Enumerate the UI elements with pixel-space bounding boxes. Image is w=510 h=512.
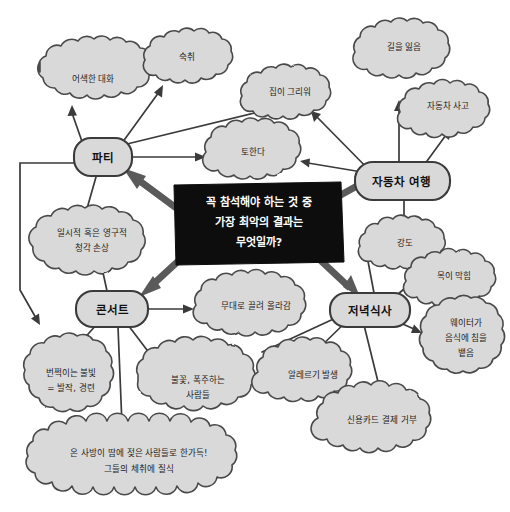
branch-node-party-label: 파티 <box>92 151 114 165</box>
central-question-line1: 꼭 참석해야 하는 것 중 <box>206 195 311 209</box>
cloud-hearing-damage: 일시적 혹은 영구적 청각 손상 <box>29 205 145 275</box>
cloud-card-declined-text: 신용카드 결제 거부 <box>347 415 416 425</box>
cloud-homesick: 집이 그리워 <box>240 64 330 119</box>
cloud-flashing-lights-line2: = 발작, 경련 <box>47 382 94 393</box>
cloud-fire-riot-line1: 불꽃, 폭주하는 <box>171 375 224 385</box>
cloud-awkward-conversation: 어색한 대화 <box>38 36 154 99</box>
cloud-car-accident-text: 자동차 사고 <box>427 101 470 111</box>
cloud-sweaty-crowd: 온 사방이 땀에 젖은 사람들로 한가득! 그들의 체취에 질식 <box>26 413 237 494</box>
cloud-dragged-on-stage-text: 무대로 끌려 올라감 <box>221 300 290 311</box>
cloud-getting-lost: 길을 잃음 <box>353 18 450 78</box>
cloud-awkward-conversation-text: 어색한 대화 <box>72 74 115 84</box>
cloud-waiter-spit-line3: 뱉음 <box>458 348 474 358</box>
cloud-fire-rioting-crowd: 불꽃, 폭주하는 사람들 <box>137 336 255 410</box>
branch-node-dinner[interactable]: 저녁식사 <box>330 293 410 327</box>
branch-node-concert[interactable]: 콘서트 <box>76 291 148 327</box>
central-question-box: 꼭 참석해야 하는 것 중 가장 최악의 결과는 무엇일까? <box>174 182 344 265</box>
branch-node-road-trip[interactable]: 자동차 여행 <box>355 162 450 200</box>
cloud-sweaty-crowd-line1: 온 사방이 땀에 젖은 사람들로 한가득! <box>70 447 207 458</box>
cloud-flashing-lights-line1: 번쩍이는 불빛 <box>46 367 97 378</box>
cloud-waiter-spit-line1: 웨이터가 <box>450 317 482 328</box>
branch-node-party[interactable]: 파티 <box>74 138 132 176</box>
mindmap-diagram: 어색한 대화 숙취 집이 그리워 길을 잃음 자동차 사고 <box>0 0 510 512</box>
cloud-allergic-reaction-text: 알레르기 발생 <box>288 370 339 380</box>
cloud-sweaty-crowd-line2: 그들의 체취에 질식 <box>104 463 173 474</box>
cloud-fire-riot-line2: 사람들 <box>186 390 210 400</box>
cloud-vomiting-text: 토한다 <box>241 147 265 157</box>
central-question-line3: 무엇일까? <box>236 235 282 249</box>
cloud-hangover: 숙취 <box>143 28 232 83</box>
branch-node-road-trip-label: 자동차 여행 <box>372 175 431 189</box>
central-question-line2: 가장 최악의 결과는 <box>215 215 303 229</box>
cloud-robbery-text: 강도 <box>397 238 413 248</box>
cloud-hearing-damage-line2: 청각 손상 <box>75 242 110 253</box>
cloud-hangover-text: 숙취 <box>179 52 195 62</box>
branch-node-dinner-label: 저녁식사 <box>348 304 392 318</box>
cloud-dragged-on-stage: 무대로 끌려 올라감 <box>193 269 306 336</box>
cloud-hearing-damage-line1: 일시적 혹은 영구적 <box>57 227 126 238</box>
cloud-flashing-lights-seizure: 번쩍이는 불빛 = 발작, 경련 <box>24 333 114 412</box>
cloud-waiter-spit: 웨이터가 음식에 침을 뱉음 <box>419 295 504 373</box>
branch-node-concert-label: 콘서트 <box>96 303 129 317</box>
cloud-waiter-spit-line2: 음식에 침을 <box>445 333 488 343</box>
cloud-homesick-text: 집이 그리워 <box>269 86 312 97</box>
cloud-choking-text: 목이 막힘 <box>437 271 472 281</box>
cloud-car-accident: 자동차 사고 <box>397 79 489 137</box>
cloud-getting-lost-text: 길을 잃음 <box>387 42 422 52</box>
cloud-vomiting: 토한다 <box>203 118 301 179</box>
mindmap-canvas: 어색한 대화 숙취 집이 그리워 길을 잃음 자동차 사고 <box>0 0 510 512</box>
